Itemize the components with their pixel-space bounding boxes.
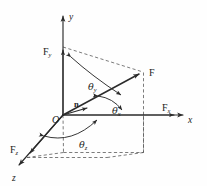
parallelogram-edge-far-to-projection (107, 153, 144, 158)
force-resultant-label: F (149, 63, 155, 79)
y-axis-label: y (69, 7, 73, 23)
theta-x-label: θx (112, 101, 121, 118)
force-z-component-label: Fz (10, 140, 18, 157)
theta-y-label: θy (88, 77, 97, 94)
dashed-fy-to-f (63, 47, 143, 72)
unit-vector-n-label: n (74, 94, 79, 110)
z-axis-label: z (12, 168, 16, 184)
force-y-component-label: Fy (43, 42, 51, 59)
force-vector-diagram: y x z O F Fy Fx Fz n θy θx θz (0, 0, 207, 186)
origin-label: O (52, 110, 59, 126)
theta-z-label: θz (79, 135, 87, 152)
coordinate-axes (19, 16, 183, 165)
parallelogram-edge-o-to-cornerz (63, 115, 64, 153)
force-x-component-label: Fx (162, 98, 170, 115)
diagram-canvas (0, 0, 207, 186)
x-axis-label: x (188, 110, 192, 126)
parallelogram-edge-fz-to-cornerz (27, 153, 64, 158)
